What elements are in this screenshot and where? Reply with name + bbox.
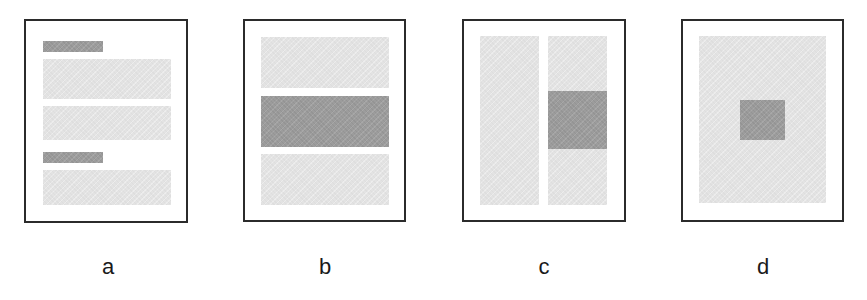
panel-label-b: b: [305, 256, 345, 278]
panel-label-c: c: [524, 256, 564, 278]
band-block: [261, 154, 389, 205]
column-block: [480, 36, 539, 205]
panel-label-a: a: [88, 256, 128, 278]
text-block: [43, 170, 171, 205]
panel-label-d: d: [743, 256, 783, 278]
highlight-block: [548, 91, 607, 149]
text-block: [43, 59, 171, 99]
heading-block: [43, 152, 103, 163]
heading-block: [43, 41, 103, 52]
band-block: [261, 37, 389, 88]
text-block: [43, 106, 171, 140]
band-block: [261, 96, 389, 147]
highlight-block: [740, 100, 785, 140]
